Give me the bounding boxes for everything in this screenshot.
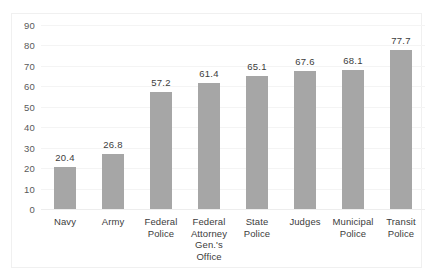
y-axis-tick-label: 40	[9, 123, 35, 133]
bar	[54, 167, 76, 209]
y-axis-tick-label: 60	[9, 82, 35, 92]
bar-value-label: 20.4	[35, 153, 95, 163]
bar-value-label: 26.8	[83, 140, 143, 150]
bar	[150, 92, 172, 209]
bar-chart-figure: 010203040506070809020.4Navy26.8Army57.2F…	[0, 0, 434, 280]
bar	[102, 154, 124, 209]
bar	[246, 76, 268, 209]
bar-value-label: 57.2	[131, 78, 191, 88]
bar	[294, 71, 316, 209]
gridline	[41, 86, 425, 87]
y-axis-tick-label: 20	[9, 164, 35, 174]
y-axis-tick-label: 90	[9, 21, 35, 31]
gridline	[41, 45, 425, 46]
x-axis-tick-label-line: Transit	[373, 216, 429, 228]
bar	[198, 83, 220, 209]
gridline	[41, 209, 425, 210]
x-axis-tick-label: TransitPolice	[373, 216, 429, 239]
gridline	[41, 107, 425, 108]
x-axis-tick-label-line: Office	[181, 251, 237, 263]
bar	[342, 70, 364, 209]
gridline	[41, 189, 425, 190]
gridline	[41, 127, 425, 128]
y-axis-tick-label: 10	[9, 185, 35, 195]
plot-area	[41, 25, 425, 209]
y-axis-tick-label: 70	[9, 62, 35, 72]
x-axis-tick-label-line: Police	[373, 228, 429, 240]
x-axis-tick-label-line: Police	[229, 228, 285, 240]
bar-value-label: 77.7	[371, 36, 431, 46]
gridline	[41, 168, 425, 169]
bar-value-label: 68.1	[323, 56, 383, 66]
y-axis-tick-label: 80	[9, 41, 35, 51]
bar	[390, 50, 412, 209]
y-axis-tick-label: 0	[9, 205, 35, 215]
y-axis-tick-label: 30	[9, 144, 35, 154]
y-axis-tick-label: 50	[9, 103, 35, 113]
gridline	[41, 25, 425, 26]
x-axis-tick-label-line: Gen.'s	[181, 239, 237, 251]
